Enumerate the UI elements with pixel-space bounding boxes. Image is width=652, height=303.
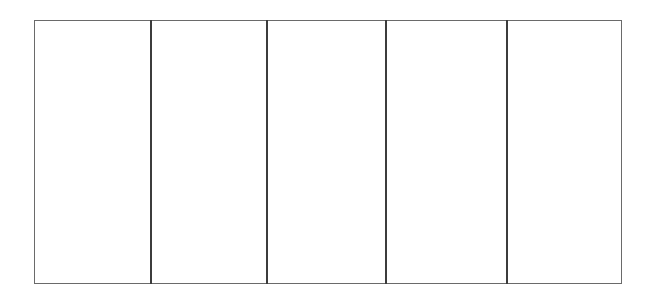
divider-1: [150, 20, 152, 284]
divider-2: [266, 20, 268, 284]
panel-5: [508, 20, 621, 284]
panel-4: [387, 20, 506, 284]
panel-3: [269, 20, 385, 284]
panel-2: [152, 20, 267, 284]
divider-4: [506, 20, 508, 284]
panel-1: [35, 20, 150, 284]
divider-3: [385, 20, 387, 284]
